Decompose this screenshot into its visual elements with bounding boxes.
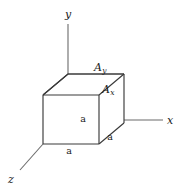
- cube-group: [43, 74, 124, 144]
- cube-front-face: [43, 95, 99, 144]
- cube-axes-drawing: [0, 0, 178, 193]
- figure-canvas: y x z a a a Ay Ax: [0, 0, 178, 193]
- z-axis-line: [20, 144, 43, 170]
